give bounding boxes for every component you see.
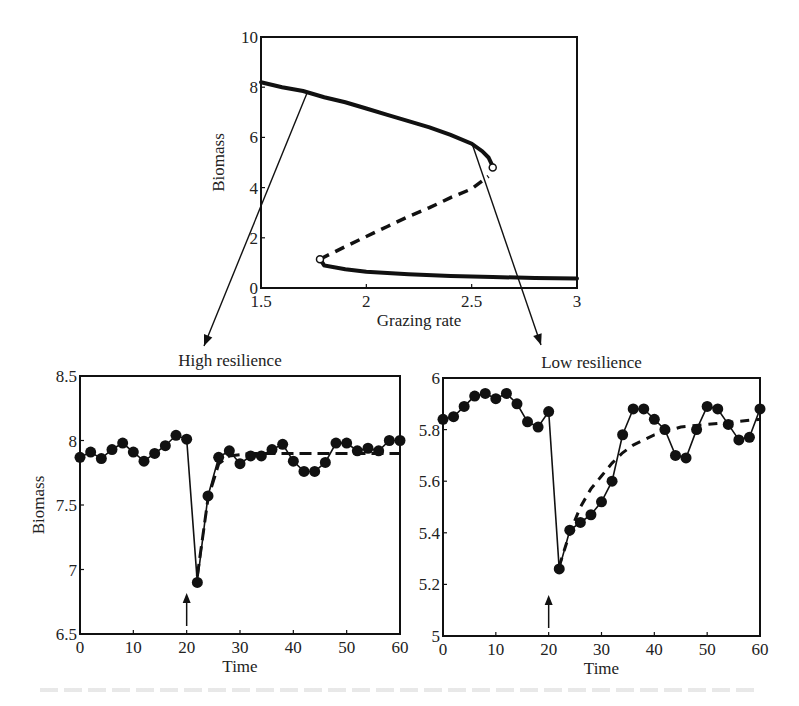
data-point [75, 452, 86, 463]
data-point [117, 438, 128, 449]
y-tick-label: 5.4 [419, 524, 441, 543]
data-point [299, 466, 310, 477]
data-point [160, 440, 171, 451]
data-point [448, 411, 459, 422]
data-point [712, 403, 723, 414]
data-point [149, 448, 160, 459]
y-tick-label: 5.8 [419, 421, 440, 440]
data-point [744, 432, 755, 443]
data-point [288, 456, 299, 467]
arrow-head-icon [533, 333, 542, 345]
plot-frame [80, 376, 400, 634]
x-tick-label: 10 [487, 640, 504, 659]
y-tick-label: 6 [432, 369, 441, 388]
x-tick-label: 30 [593, 640, 610, 659]
y-tick-label: 4 [250, 179, 259, 198]
data-point [469, 391, 480, 402]
y-tick-label: 8 [250, 78, 259, 97]
data-point [733, 434, 744, 445]
x-tick-label: 50 [699, 640, 716, 659]
x-tick-label: 30 [232, 638, 249, 657]
low-resilience-chart: 010203040506055.25.45.65.86TimeLow resil… [419, 353, 769, 678]
y-tick-label: 7 [69, 561, 78, 580]
plot-frame [261, 37, 577, 288]
x-tick-label: 20 [178, 638, 195, 657]
data-point [309, 466, 320, 477]
data-point [331, 438, 342, 449]
y-tick-label: 5.2 [419, 575, 440, 594]
x-tick-label: 40 [646, 640, 663, 659]
data-point [181, 434, 192, 445]
data-point [628, 403, 639, 414]
series-line [320, 176, 489, 259]
data-point [533, 422, 544, 433]
x-tick-label: 40 [285, 638, 302, 657]
arrow-head-icon [545, 595, 553, 605]
x-axis-label: Time [584, 659, 619, 678]
data-point [438, 414, 449, 425]
data-point [617, 429, 628, 440]
x-axis-label: Grazing rate [377, 311, 461, 330]
x-tick-label: 50 [338, 638, 355, 657]
data-point [171, 430, 182, 441]
y-tick-label: 10 [241, 28, 258, 47]
data-point [501, 388, 512, 399]
data-point [490, 393, 501, 404]
x-tick-label: 20 [540, 640, 557, 659]
chart-title: Low resilience [541, 353, 642, 372]
data-point [638, 403, 649, 414]
data-point [585, 509, 596, 520]
data-point [235, 458, 246, 469]
data-point [607, 476, 618, 487]
x-tick-label: 3 [573, 292, 582, 311]
tipping-point-marker [316, 256, 323, 263]
x-tick-label: 60 [392, 638, 409, 657]
y-tick-label: 8 [69, 432, 78, 451]
y-axis-label: Biomass [29, 476, 48, 535]
series-line [320, 259, 577, 278]
data-point [681, 452, 692, 463]
chart-title: High resilience [178, 351, 281, 370]
data-point [277, 439, 288, 450]
data-point [670, 450, 681, 461]
high-resilience-chart: 01020304050606.577.588.5TimeBiomassHigh … [29, 351, 409, 676]
y-tick-label: 7.5 [56, 496, 77, 515]
data-point [107, 444, 118, 455]
data-point [320, 457, 331, 468]
data-point [395, 435, 406, 446]
x-axis-label: Time [222, 657, 257, 676]
data-point [341, 438, 352, 449]
data-point [755, 403, 766, 414]
figure: 1.522.530246810Grazing rateBiomass 01020… [0, 0, 799, 706]
data-point [96, 453, 107, 464]
data-point [543, 406, 554, 417]
arrow-head-icon [183, 593, 191, 603]
tipping-point-marker [489, 164, 496, 171]
data-point [649, 414, 660, 425]
data-point [128, 447, 139, 458]
series-line [80, 435, 400, 582]
connector-line [472, 142, 541, 345]
x-tick-label: 2.5 [461, 292, 482, 311]
series-line [443, 394, 760, 569]
data-point [596, 496, 607, 507]
x-tick-label: 60 [752, 640, 769, 659]
x-tick-label: 10 [125, 638, 142, 657]
y-tick-label: 6.5 [56, 625, 77, 644]
bifurcation-chart: 1.522.530246810Grazing rateBiomass [209, 28, 581, 330]
series-line [559, 419, 760, 566]
data-point [85, 447, 96, 458]
data-point [702, 401, 713, 412]
y-tick-label: 5.6 [419, 472, 440, 491]
data-point [459, 401, 470, 412]
x-tick-label: 0 [76, 638, 85, 657]
x-tick-label: 0 [439, 640, 448, 659]
caption-strip [40, 688, 760, 692]
data-point [139, 456, 150, 467]
y-axis-label: Biomass [209, 133, 228, 192]
arrow-head-icon [204, 334, 212, 346]
y-tick-label: 5 [432, 627, 441, 646]
y-tick-label: 0 [250, 279, 259, 298]
x-tick-label: 2 [362, 292, 371, 311]
y-tick-label: 6 [250, 128, 259, 147]
